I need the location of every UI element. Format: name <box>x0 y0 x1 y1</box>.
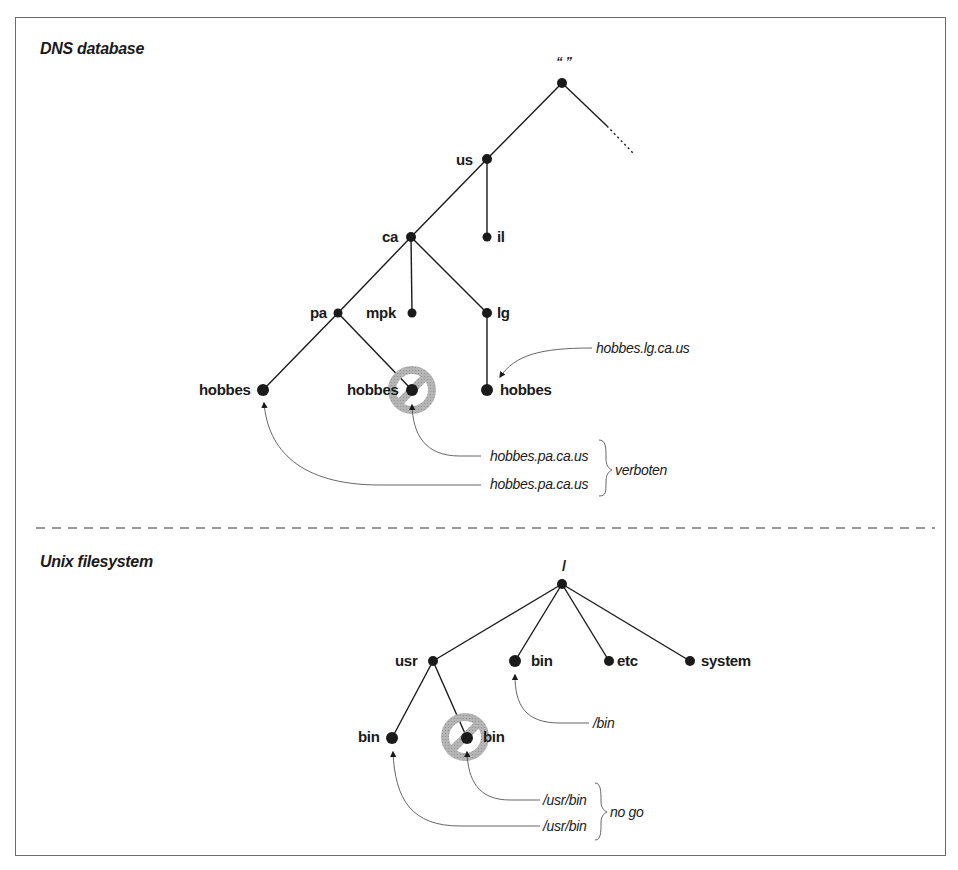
unix-root-label: / <box>562 557 567 574</box>
node-dot <box>557 78 567 88</box>
dns-node-lg: lg <box>497 304 510 321</box>
node-dot <box>604 656 614 666</box>
arrow-icon <box>500 348 592 377</box>
unix-brace-label: no go <box>610 804 644 820</box>
dns-node-pa: pa <box>310 304 328 321</box>
dns-node-mpk: mpk <box>366 304 397 321</box>
arrow-icon <box>515 675 589 723</box>
unix-section-title: Unix filesystem <box>40 553 153 570</box>
arrow-icon <box>467 752 540 800</box>
unix-callout-bin: /bin <box>592 715 615 731</box>
dns-root-label: “ ” <box>556 54 573 69</box>
dns-edges <box>263 83 633 390</box>
node-dot <box>483 233 492 242</box>
unix-node-etc: etc <box>617 652 638 669</box>
dns-node-hobbes-pa-1: hobbes <box>199 381 251 398</box>
dns-callout-lg: hobbes.lg.ca.us <box>596 340 690 356</box>
dns-node-hobbes-lg: hobbes <box>500 381 552 398</box>
node-dot <box>334 309 343 318</box>
node-dot <box>481 384 493 396</box>
node-dot <box>428 656 438 666</box>
dns-node-ca: ca <box>382 228 399 245</box>
node-dot <box>406 384 418 396</box>
dns-section-title: DNS database <box>40 40 144 57</box>
dns-callout-pa-top: hobbes.pa.ca.us <box>490 448 589 464</box>
node-dot <box>386 732 398 744</box>
unix-node-bin: bin <box>531 652 553 669</box>
namespace-diagram: DNS database <box>0 0 958 870</box>
unix-node-system: system <box>701 652 751 669</box>
unix-callout-usr-bottom: /usr/bin <box>542 818 587 834</box>
node-dot <box>257 384 269 396</box>
unix-callout-usr-top: /usr/bin <box>542 792 587 808</box>
node-dot <box>482 308 492 318</box>
node-dot <box>406 232 416 242</box>
unix-node-usr-bin-2: bin <box>483 728 505 745</box>
node-dot <box>685 656 695 666</box>
dns-section: DNS database <box>40 40 690 496</box>
dns-node-hobbes-pa-2: hobbes <box>347 381 399 398</box>
brace-icon <box>595 783 607 840</box>
dns-callout-pa-bottom: hobbes.pa.ca.us <box>490 476 589 492</box>
unix-node-usr: usr <box>395 652 418 669</box>
brace-icon <box>599 440 612 496</box>
dns-node-us: us <box>456 151 473 168</box>
arrow-icon <box>412 405 481 456</box>
node-dot <box>461 732 473 744</box>
node-dot <box>509 655 521 667</box>
dns-brace-label: verboten <box>615 462 668 478</box>
arrow-icon <box>393 752 540 826</box>
arrow-icon <box>264 403 481 485</box>
unix-node-usr-bin-1: bin <box>358 728 380 745</box>
node-dot <box>408 309 417 318</box>
node-dot <box>482 154 492 164</box>
dns-node-il: il <box>497 228 505 245</box>
unix-section: Unix filesystem / usr bin etc system <box>40 553 751 840</box>
node-dot <box>557 579 567 589</box>
